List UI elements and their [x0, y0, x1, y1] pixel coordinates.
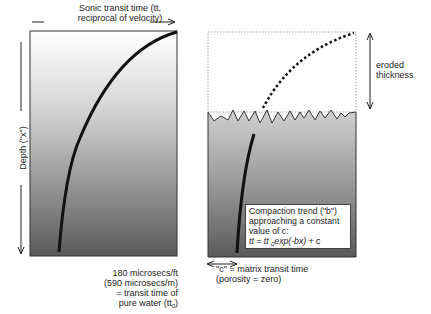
x-axis-label-line2: reciprocal of velocity) [45, 13, 195, 23]
eroded-frame [208, 32, 356, 112]
x-axis-label-line1: Sonic transit time (tt, [45, 3, 195, 13]
compaction-line1: Compaction trend ("b") [249, 206, 350, 216]
compaction-line3: value of c: [249, 226, 350, 236]
water-transit-note: 180 microsecs/ft (590 microsecs/m) = tra… [92, 268, 178, 311]
water-note-close: ) [175, 298, 178, 308]
eroded-curve-dotted [263, 33, 354, 108]
left-panel [30, 31, 177, 256]
y-axis-label: Depth ("x") [18, 111, 28, 185]
water-note-line1: 180 microsecs/ft [92, 268, 178, 278]
water-note-line2: (590 microsecs/m) [92, 278, 178, 288]
compaction-line2: approaching a constant [249, 216, 350, 226]
eroded-label-line2: thickness [376, 70, 414, 80]
eroded-thickness-label: eroded thickness [376, 60, 414, 80]
water-note-line4: pure water (tt0) [92, 298, 178, 311]
compaction-equation: tt = tt 0exp(-bx) + c [249, 236, 350, 249]
equation-suffix: exp(-bx) + c [274, 236, 320, 246]
equation-prefix: tt = tt [249, 236, 271, 246]
matrix-note-line2: (porosity = zero) [216, 274, 308, 284]
matrix-transit-note: "c" = matrix transit time (porosity = ze… [216, 264, 308, 284]
x-axis-label: Sonic transit time (tt, reciprocal of ve… [45, 3, 195, 23]
eroded-label-line1: eroded [376, 60, 414, 70]
compaction-trend-box: Compaction trend ("b") approaching a con… [245, 204, 351, 249]
water-note-line3: = transit time of [92, 288, 178, 298]
matrix-note-line1: "c" = matrix transit time [216, 264, 308, 274]
water-note-text: pure water (tt [119, 298, 172, 308]
